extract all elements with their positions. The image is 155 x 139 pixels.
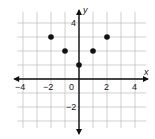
data-point [48,34,54,40]
y-axis-up-arrow-icon [76,9,82,15]
data-point [62,48,68,54]
y-tick-label: −2 [66,102,76,112]
x-tick-label: 4 [132,82,137,92]
x-axis-label: x [143,67,149,77]
x-tick-label: 2 [104,82,109,92]
grid-lines [17,12,146,128]
y-axis-down-arrow-icon [76,129,82,135]
axes [13,9,149,135]
y-tick-label: 4 [71,18,76,28]
x-tick-label: −2 [43,82,53,92]
data-point [104,34,110,40]
origin-label: 0 [69,82,74,92]
coordinate-plane: xy0−4−2244−2 [0,0,155,139]
tick-labels: xy0−4−2244−2 [15,5,149,112]
data-point [76,62,82,68]
data-point [90,48,96,54]
y-axis-label: y [82,5,88,15]
x-tick-label: −4 [15,82,25,92]
